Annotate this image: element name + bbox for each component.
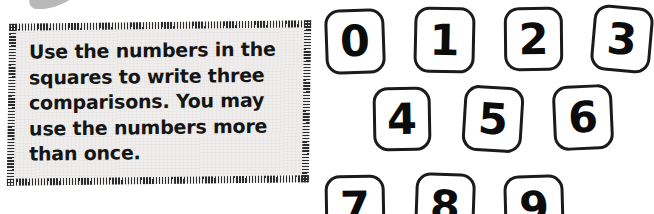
number-tile-digit: 8 [429, 184, 460, 214]
number-tile-digit: 2 [518, 17, 548, 60]
number-tile-digit: 5 [477, 97, 509, 142]
number-tile-9[interactable]: 9 [503, 174, 565, 214]
number-tile-1[interactable]: 1 [413, 6, 475, 73]
callout-border-right [302, 20, 312, 182]
number-tile-digit: 9 [518, 186, 549, 214]
number-tile-7[interactable]: 7 [324, 174, 385, 214]
number-tile-6[interactable]: 6 [552, 84, 615, 152]
number-tile-digit: 7 [340, 186, 371, 214]
number-tile-digit: 6 [567, 95, 599, 139]
number-tile-digit: 1 [429, 18, 460, 62]
number-tile-3[interactable]: 3 [589, 4, 654, 75]
number-tile-8[interactable]: 8 [414, 172, 476, 214]
cropped-dark-swoosh-graphic [0, 0, 124, 18]
number-tile-5[interactable]: 5 [461, 84, 525, 154]
worksheet-page: Use the numbers in the squares to write … [0, 0, 654, 214]
number-tile-digit: 0 [339, 19, 370, 63]
number-tile-4[interactable]: 4 [372, 86, 431, 151]
instruction-callout: Use the numbers in the squares to write … [7, 20, 312, 186]
instruction-text: Use the numbers in the squares to write … [29, 36, 296, 167]
number-tile-digit: 3 [605, 16, 639, 61]
number-tile-digit: 4 [387, 97, 418, 141]
number-tile-2[interactable]: 2 [504, 7, 564, 72]
number-tile-0[interactable]: 0 [324, 8, 386, 75]
